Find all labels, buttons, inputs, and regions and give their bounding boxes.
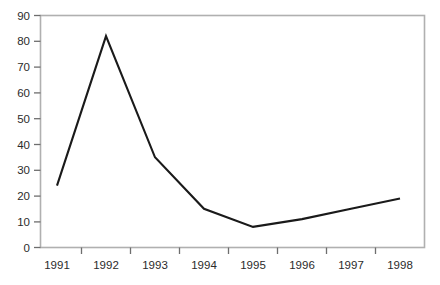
plot-area-frame [41,16,425,248]
line-chart: 90 80 70 60 50 40 30 20 10 0 1991 1992 1… [0,0,440,285]
x-axis-labels: 1991 1992 1993 1994 1995 1996 1997 1998 [44,259,413,271]
x-axis-ticks [82,248,376,255]
x-axis-label-1991: 1991 [44,259,70,271]
y-axis-labels: 90 80 70 60 50 40 30 20 10 0 [17,10,30,254]
x-axis-label-1996: 1996 [289,259,315,271]
y-axis-label-80: 80 [17,35,30,47]
x-axis-label-1994: 1994 [191,259,217,271]
x-axis-label-1998: 1998 [387,259,413,271]
y-axis-label-50: 50 [17,113,30,125]
y-axis-label-60: 60 [17,87,30,99]
y-axis-label-30: 30 [17,164,30,176]
y-axis-label-70: 70 [17,61,30,73]
y-axis-label-20: 20 [17,190,30,202]
y-axis-ticks [34,16,41,248]
y-axis-label-0: 0 [24,242,30,254]
y-axis-label-10: 10 [17,216,30,228]
y-axis-label-40: 40 [17,139,30,151]
x-axis-label-1997: 1997 [338,259,364,271]
y-axis-label-90: 90 [17,10,30,22]
x-axis-label-1992: 1992 [93,259,119,271]
x-axis-label-1995: 1995 [240,259,266,271]
x-axis-label-1993: 1993 [142,259,168,271]
chart-canvas: 90 80 70 60 50 40 30 20 10 0 1991 1992 1… [0,0,440,285]
